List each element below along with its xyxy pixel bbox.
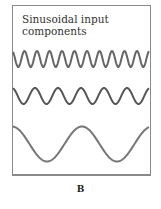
figure-label: B — [0, 184, 161, 194]
wave-mid-frequency — [13, 88, 149, 104]
sinusoid-plot — [0, 0, 161, 209]
wave-low-frequency — [13, 127, 149, 162]
wave-high-frequency — [13, 51, 149, 67]
